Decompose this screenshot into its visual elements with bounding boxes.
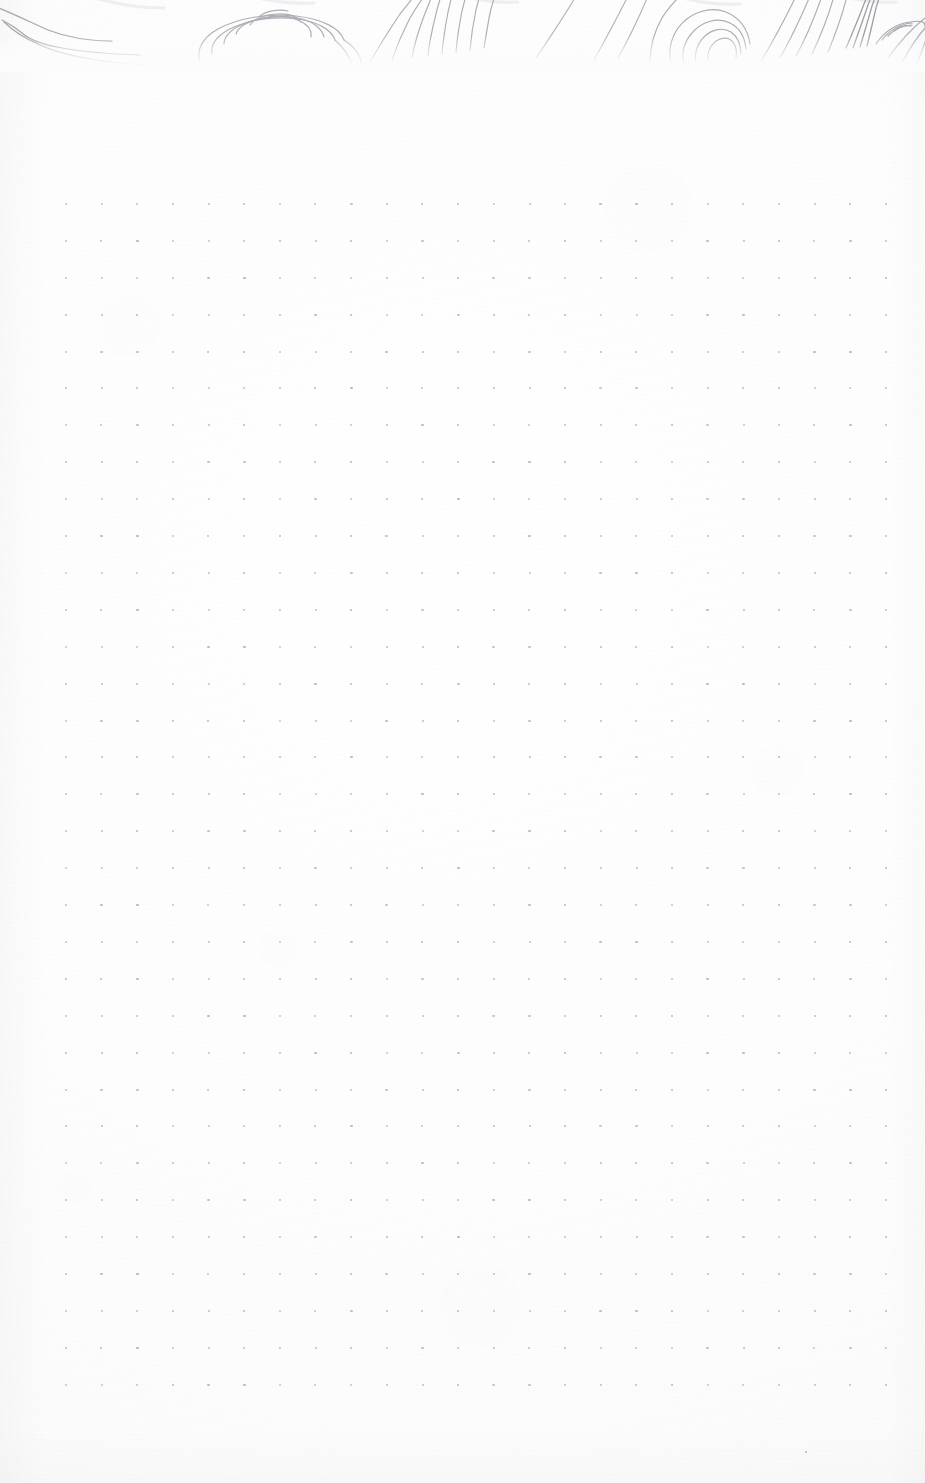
topographic-contour-band	[0, 0, 925, 72]
page-content-area[interactable]	[66, 204, 886, 1386]
contour-lines-svg	[0, 0, 925, 72]
notebook-page	[0, 0, 925, 1483]
